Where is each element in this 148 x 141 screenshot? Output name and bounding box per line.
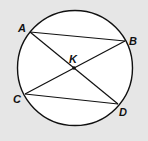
label-k: K [69,53,78,65]
circle-chord-diagram: A B C D K [0,0,148,141]
label-a: A [17,22,26,34]
label-b: B [129,35,137,47]
label-d: D [119,106,127,118]
point-k-dot [72,66,76,70]
label-c: C [13,93,22,105]
